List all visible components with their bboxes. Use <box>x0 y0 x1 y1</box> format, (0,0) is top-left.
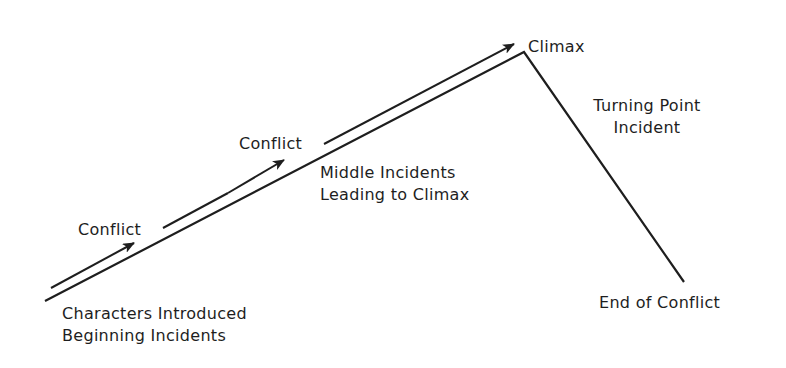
conflict-arrow-1 <box>51 243 134 288</box>
turning-point-line1: Turning Point <box>576 95 718 117</box>
beginning-line1: Characters Introduced <box>62 303 247 325</box>
conflict-arrow-2 <box>228 160 284 193</box>
middle-incidents-line2: Leading to Climax <box>320 184 469 206</box>
middle-incidents-label: Middle Incidents Leading to Climax <box>320 162 469 206</box>
conflict-label-2: Conflict <box>239 133 302 155</box>
climax-label: Climax <box>528 36 585 58</box>
climax-arrow <box>324 44 514 144</box>
conflict-label-1: Conflict <box>78 219 141 241</box>
turning-point-line2: Incident <box>576 117 718 139</box>
end-of-conflict-label: End of Conflict <box>599 292 720 314</box>
beginning-label: Characters Introduced Beginning Incident… <box>62 303 247 347</box>
beginning-line2: Beginning Incidents <box>62 325 247 347</box>
middle-incidents-line1: Middle Incidents <box>320 162 469 184</box>
turning-point-label: Turning Point Incident <box>576 95 718 139</box>
